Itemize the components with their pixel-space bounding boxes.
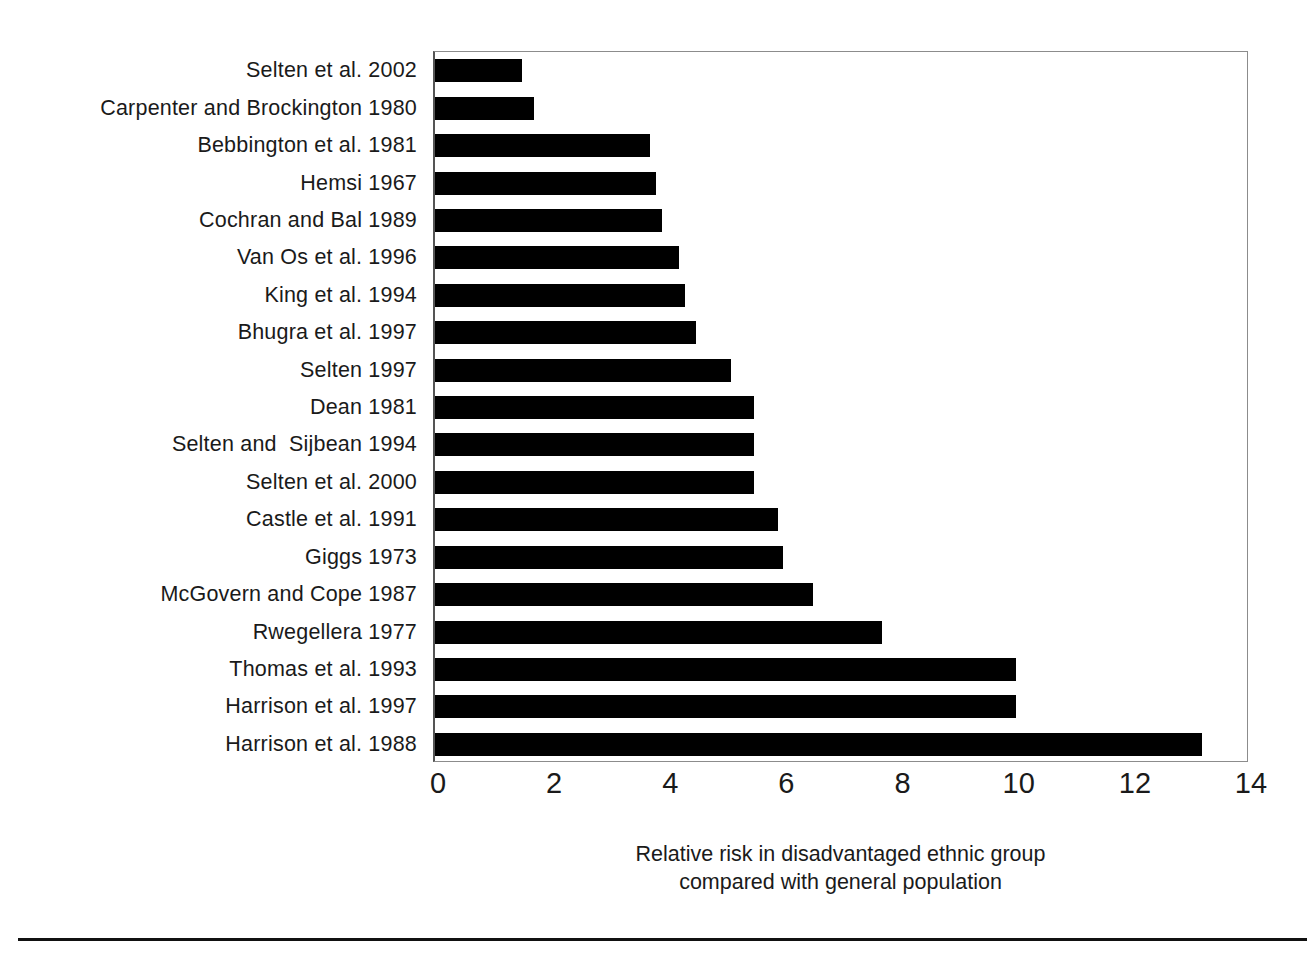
category-label: Carpenter and Brockington 1980 [0, 97, 417, 120]
category-label: King et al. 1994 [0, 284, 417, 307]
category-label: Bebbington et al. 1981 [0, 134, 417, 157]
category-label: Van Os et al. 1996 [0, 246, 417, 269]
bar [435, 471, 754, 494]
category-label: Castle et al. 1991 [0, 508, 417, 531]
plot-area [433, 51, 1248, 762]
bar [435, 695, 1016, 718]
x-tick-label: 10 [979, 766, 1059, 800]
value-axis: 02468101214 [433, 766, 1248, 812]
bar [435, 97, 534, 120]
x-tick-label: 0 [398, 766, 478, 800]
bar [435, 583, 813, 606]
x-axis-title-line-1: Relative risk in disadvantaged ethnic gr… [433, 840, 1248, 868]
bar [435, 359, 731, 382]
bar [435, 172, 656, 195]
bar [435, 546, 783, 569]
bars-layer [435, 52, 1247, 761]
bar [435, 284, 685, 307]
category-label: Dean 1981 [0, 396, 417, 419]
x-axis-title-line-2: compared with general population [433, 868, 1248, 896]
category-label: Cochran and Bal 1989 [0, 209, 417, 232]
bar [435, 59, 522, 82]
category-label: Rwegellera 1977 [0, 621, 417, 644]
bar [435, 733, 1202, 756]
category-label: Harrison et al. 1988 [0, 733, 417, 756]
x-tick-label: 14 [1211, 766, 1291, 800]
bar [435, 209, 662, 232]
bar [435, 246, 679, 269]
bar [435, 321, 696, 344]
bar [435, 134, 650, 157]
x-tick-label: 6 [746, 766, 826, 800]
category-label: Giggs 1973 [0, 546, 417, 569]
category-label: Selten et al. 2002 [0, 59, 417, 82]
bar [435, 621, 882, 644]
bottom-divider-rule [18, 938, 1307, 941]
bar [435, 508, 778, 531]
bar [435, 433, 754, 456]
category-label: Selten et al. 2000 [0, 471, 417, 494]
category-label: Bhugra et al. 1997 [0, 321, 417, 344]
x-tick-label: 4 [630, 766, 710, 800]
x-tick-label: 12 [1095, 766, 1175, 800]
category-label: Hemsi 1967 [0, 172, 417, 195]
x-tick-label: 2 [514, 766, 594, 800]
category-label: Harrison et al. 1997 [0, 695, 417, 718]
category-axis: Selten et al. 2002Carpenter and Brocking… [0, 51, 425, 762]
chart-figure: Selten et al. 2002Carpenter and Brocking… [0, 0, 1307, 953]
x-tick-label: 8 [863, 766, 943, 800]
category-label: Selten 1997 [0, 359, 417, 382]
category-label: Thomas et al. 1993 [0, 658, 417, 681]
category-label: Selten and Sijbean 1994 [0, 433, 417, 456]
x-axis-title: Relative risk in disadvantaged ethnic gr… [433, 840, 1248, 896]
category-label: McGovern and Cope 1987 [0, 583, 417, 606]
bar [435, 658, 1016, 681]
bar [435, 396, 754, 419]
